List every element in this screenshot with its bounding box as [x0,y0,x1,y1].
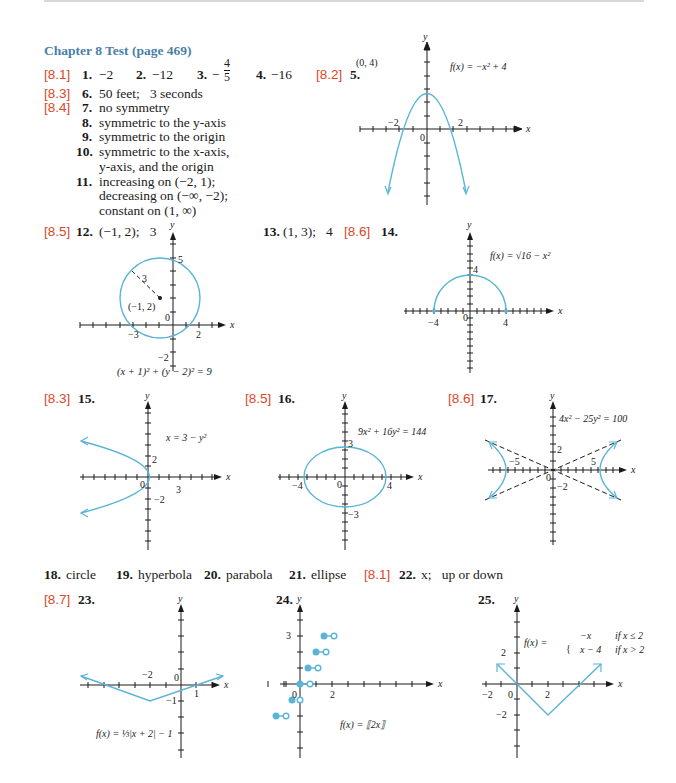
origin-label: 0 [165,312,170,323]
brace-icon: { [566,643,571,654]
section-label: [8.6] [344,224,370,239]
answer-text: −12 [152,67,173,83]
x-axis-label: x [525,123,531,134]
section-label: [8.1] [364,567,390,582]
answer-text: parabola [226,567,272,583]
fraction-denominator: 5 [224,71,230,84]
answer-number: 2. [136,67,146,83]
x-axis-label: x [630,464,636,475]
answer-text: symmetric to the x-axis, [99,144,229,160]
section-label: [8.1] [44,67,70,82]
answer-number: 9. [82,129,92,145]
answer-text: ellipse [311,567,346,583]
y-tick-label: −3 [348,509,359,520]
answer-text: constant on (1, ∞) [99,203,196,219]
y-axis-label: y [169,219,175,230]
x-tick-label: 3 [176,484,181,495]
origin-label: 0 [292,689,297,700]
x-axis-label: x [617,678,623,689]
graph-24-greatest-integer: y x 3 0 2 f(x) = ⟦2x⟧ [270,590,460,770]
y-tick-label: 2 [501,647,506,658]
y-axis-label: y [422,31,428,42]
case-1-condition: if x ≤ 2 [615,630,643,641]
answer-number: 3. [197,67,207,83]
y-axis-label: y [296,593,302,604]
answer-text: −16 [271,67,292,83]
x-tick-label: 2 [545,689,550,700]
vertex-label: (0, 4) [356,57,378,69]
y-axis-label: y [466,219,472,230]
equation-prefix: f(x) = [524,637,547,649]
equation-label: 4x² − 25y² = 100 [559,413,627,424]
equation-label: f(x) = √16 − x² [490,250,551,262]
answer-number: 4. [256,67,266,83]
x-tick-label: −2 [388,117,399,128]
y-axis-label: y [513,593,519,604]
equation-label: f(x) = ⟦2x⟧ [340,719,386,731]
y-tick-label: 3 [348,438,353,449]
case-1-expression: −x [580,630,592,641]
x-tick-label: −4 [428,317,439,328]
answer-text: decreasing on (−∞, −2); [99,188,228,204]
answer-text: hyperbola [138,567,192,583]
equation-label: (x + 1)² + (y − 2)² = 9 [117,366,212,377]
center-label: (−1, 2) [128,301,155,313]
x-tick-label: 2 [458,117,463,128]
graph-12-circle: y x 3 (−1, 2) 5 −3 0 2 −2 [70,228,250,378]
y-tick-label: 4 [473,264,478,275]
x-tick-label: −4 [292,480,303,491]
x-axis-label: x [223,679,229,690]
y-tick-label: −2 [557,481,568,492]
equation-label: x = 3 − y² [165,432,207,443]
section-label: [8.5] [245,391,271,406]
origin-label: 0 [508,689,513,700]
y-axis-label: y [341,390,347,401]
y-tick-label: 2 [557,444,562,455]
section-label: [8.2] [316,67,342,82]
answer-text: symmetric to the origin [99,129,225,145]
y-tick-label: 5 [178,254,183,265]
graph-15-parabola: y x x = 3 − y² 2 0 3 −2 [78,395,238,555]
x-tick-label: −3 [128,329,139,340]
graph-17-hyperbola: y x 4x² − 25y² = 100 2 −5 0 5 −2 [483,395,663,555]
answer-text: y-axis, and the origin [99,159,214,175]
section-label: [8.3] [44,391,70,406]
answer-number: 11. [76,174,92,190]
answer-text: (1, 3); 4 [283,224,333,240]
section-label: [8.6] [448,391,474,406]
answer-text: − [212,67,220,83]
answer-number: 20. [204,567,221,583]
answer-number: 18. [44,567,61,583]
answer-number: 10. [76,144,93,160]
equation-label: 9x² + 16y² = 144 [358,426,426,437]
y-tick-label: −2 [158,352,169,363]
origin-label: 0 [463,312,468,323]
answer-number: 7. [82,100,92,116]
origin-label: 0 [174,672,179,683]
section-label: [8.3] [44,86,70,101]
graph-14-semicircle: y x f(x) = √16 − x² 4 −4 0 4 [400,228,600,378]
x-axis-label: x [225,471,231,482]
graph-25-piecewise: y x 2 −2 0 2 −2 f(x) = { −x if x ≤ 2 x −… [470,590,670,770]
case-2-condition: if x > 2 [615,644,644,655]
y-tick-label: −2 [154,494,165,505]
section-label: [8.5] [44,224,70,239]
x-tick-label: 1 [194,688,199,699]
top-rule [44,0,644,2]
answer-number: 13. [263,224,280,240]
answer-text: circle [66,567,96,583]
answer-text: no symmetry [99,100,170,116]
y-tick-label: −1 [166,695,177,706]
equation-label: f(x) = −x² + 4 [450,61,507,73]
x-tick-label: 4 [503,317,508,328]
x-axis-label: x [557,305,563,316]
radius-label: 3 [142,273,147,284]
equation-label: f(x) = ⅓|x + 2| − 1 [96,728,173,740]
answer-number: 1. [82,67,92,83]
y-tick-label: −2 [496,709,507,720]
case-2-expression: x − 4 [579,644,601,655]
x-tick-label: −2 [142,669,153,680]
x-axis-label: x [417,471,423,482]
x-tick-label: 2 [196,329,201,340]
origin-label: 0 [140,479,145,490]
